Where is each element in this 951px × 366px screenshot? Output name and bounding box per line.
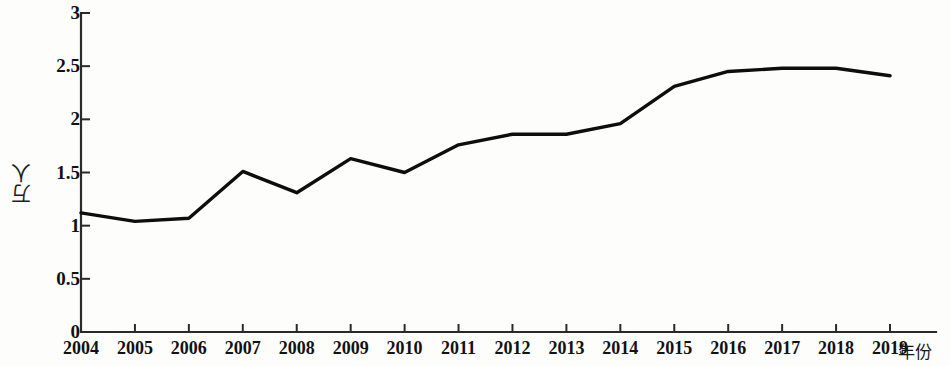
x-tick-label: 2016 bbox=[710, 338, 746, 359]
x-tick-marks bbox=[81, 324, 890, 332]
x-tick-label: 2007 bbox=[225, 338, 261, 359]
y-tick-marks bbox=[81, 13, 90, 332]
x-tick-label: 2017 bbox=[764, 338, 800, 359]
x-tick-label: 2011 bbox=[441, 338, 476, 359]
x-tick-label: 2009 bbox=[333, 338, 369, 359]
x-tick-label: 2012 bbox=[494, 338, 530, 359]
line-chart-figure: 万人 00.511.522.53 20042005200620072008200… bbox=[0, 0, 951, 366]
x-tick-label: 2005 bbox=[117, 338, 153, 359]
x-tick-label: 2006 bbox=[171, 338, 207, 359]
x-tick-label: 2015 bbox=[656, 338, 692, 359]
x-tick-label: 2008 bbox=[279, 338, 315, 359]
axis-frame bbox=[81, 13, 936, 332]
x-tick-label: 2018 bbox=[818, 338, 854, 359]
data-series-line bbox=[81, 68, 890, 221]
plot-area bbox=[0, 0, 951, 366]
x-tick-label: 2014 bbox=[602, 338, 638, 359]
x-tick-label: 2004 bbox=[63, 338, 99, 359]
x-tick-label: 2010 bbox=[387, 338, 423, 359]
data-series-group bbox=[81, 68, 890, 221]
x-tick-label: 2013 bbox=[548, 338, 584, 359]
axis-lines bbox=[81, 13, 936, 332]
x-axis-title: 年份 bbox=[898, 338, 932, 363]
